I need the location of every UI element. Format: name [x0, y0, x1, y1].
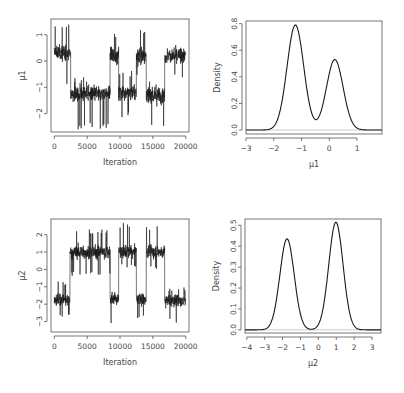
x-axis: −3−2−101	[240, 138, 359, 153]
y-axis-title: μ1	[18, 70, 27, 80]
y-tick-label: −1	[35, 281, 44, 292]
y-tick-label: 0.3	[229, 261, 238, 273]
y-axis: 10−1−2	[35, 32, 47, 119]
y-tick-label: 2	[35, 232, 44, 237]
x-axis-title: μ1	[309, 160, 319, 169]
x-tick-label: 10000	[108, 342, 132, 351]
plot-frame	[245, 219, 381, 333]
y-axis: 0.00.20.40.60.8	[230, 17, 242, 136]
x-tick-label: −4	[241, 343, 252, 352]
figure-canvas: 0500010000150002000010−1−2Iterationμ1 −3…	[0, 0, 404, 393]
y-axis-title: μ2	[18, 270, 27, 280]
x-axis-title: μ2	[308, 359, 318, 368]
panel-density-mu1: −3−2−1010.00.20.40.60.8μ1Density	[213, 17, 382, 169]
panel-trace-mu1: 0500010000150002000010−1−2Iterationμ1	[18, 19, 198, 167]
x-tick-label: 2	[352, 343, 357, 352]
density-curve	[246, 25, 382, 130]
y-tick-label: 0.5	[229, 219, 238, 231]
density-curve	[245, 222, 381, 330]
x-tick-label: −2	[268, 144, 279, 153]
x-tick-label: 5000	[78, 342, 97, 351]
y-tick-label: −2	[35, 108, 44, 119]
y-tick-label: 0.0	[229, 324, 238, 336]
y-tick-label: 0.4	[229, 240, 238, 252]
x-axis-title: Iteration	[103, 158, 137, 167]
y-axis-title: Density	[213, 62, 222, 93]
x-tick-label: 20000	[174, 142, 198, 151]
x-tick-label: 3	[370, 343, 375, 352]
x-tick-label: 5000	[78, 142, 97, 151]
y-axis: 210−1−2−3	[35, 232, 47, 327]
x-axis: 05000100001500020000	[52, 336, 198, 351]
y-tick-label: 1	[35, 32, 44, 37]
x-tick-label: 0	[52, 342, 57, 351]
trace-line	[54, 25, 185, 130]
x-tick-label: 0	[316, 343, 321, 352]
y-tick-label: 0.2	[230, 97, 239, 109]
x-tick-label: 15000	[141, 142, 165, 151]
x-tick-label: 0	[52, 142, 57, 151]
x-tick-label: 20000	[174, 342, 198, 351]
x-tick-label: 1	[334, 343, 339, 352]
x-axis-title: Iteration	[103, 358, 137, 367]
x-tick-label: 0	[327, 144, 332, 153]
x-axis: 05000100001500020000	[52, 136, 198, 151]
x-tick-label: −2	[277, 343, 288, 352]
y-tick-label: 0.4	[230, 71, 239, 83]
y-tick-label: 0	[35, 267, 44, 272]
x-axis: −4−3−2−10123	[241, 337, 374, 352]
trace-line	[54, 223, 185, 323]
panel-density-mu2: −4−3−2−101230.00.10.20.30.40.5μ2Density	[212, 219, 381, 368]
y-tick-label: 0.2	[229, 282, 238, 294]
y-tick-label: 0.1	[229, 303, 238, 315]
x-tick-label: −1	[295, 343, 306, 352]
x-tick-label: 15000	[141, 342, 165, 351]
panel-trace-mu2: 05000100001500020000210−1−2−3Iterationμ2	[18, 219, 198, 367]
y-tick-label: 0.6	[230, 44, 239, 56]
y-tick-label: 0.0	[230, 124, 239, 136]
y-tick-label: 0	[35, 58, 44, 63]
x-tick-label: −3	[259, 343, 270, 352]
y-tick-label: −1	[35, 82, 44, 93]
plot-frame	[246, 21, 382, 134]
y-axis: 0.00.10.20.30.40.5	[229, 219, 241, 336]
y-axis-title: Density	[212, 261, 221, 292]
y-tick-label: 0.8	[230, 17, 239, 29]
x-tick-label: 10000	[108, 142, 132, 151]
y-tick-label: 1	[35, 249, 44, 254]
x-tick-label: −3	[240, 144, 251, 153]
y-tick-label: −2	[35, 298, 44, 309]
x-tick-label: 1	[355, 144, 360, 153]
x-tick-label: −1	[296, 144, 307, 153]
y-tick-label: −3	[35, 316, 44, 327]
